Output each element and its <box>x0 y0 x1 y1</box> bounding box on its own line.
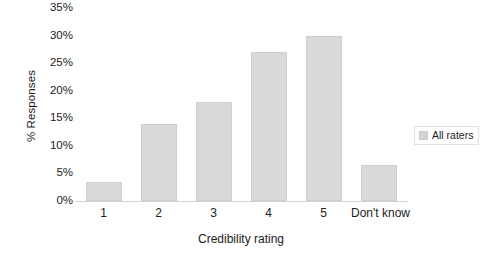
x-axis-tick: 2 <box>131 206 186 220</box>
y-axis-tick: 30% <box>33 30 73 42</box>
bar <box>141 124 177 201</box>
y-axis-tick: 15% <box>33 112 73 124</box>
x-axis-tick: 3 <box>186 206 241 220</box>
x-axis-tick: 5 <box>296 206 351 220</box>
x-axis-tick: 4 <box>241 206 296 220</box>
x-axis-tick-labels: 12345Don't know <box>76 206 416 228</box>
x-axis-tick: 1 <box>76 206 131 220</box>
bar <box>306 36 342 201</box>
legend-label-all-raters: All raters <box>432 130 473 141</box>
bar <box>361 165 397 201</box>
bar <box>196 102 232 201</box>
plot-area <box>76 8 406 201</box>
y-axis-tick: 35% <box>33 2 73 14</box>
legend-swatch-all-raters <box>419 131 428 140</box>
x-axis-tick: Don't know <box>351 206 406 220</box>
x-axis-title: Credibility rating <box>76 232 406 246</box>
chart-legend: All raters <box>414 126 479 145</box>
y-axis-tick: 10% <box>33 140 73 152</box>
y-axis-tick: 25% <box>33 57 73 69</box>
y-axis-tick: 20% <box>33 85 73 97</box>
y-axis-tick: 0% <box>33 195 73 207</box>
y-axis-tick-labels: 35%30%25%20%15%10%5%0% <box>33 0 73 261</box>
bar <box>251 52 287 201</box>
bar-chart: % Responses 35%30%25%20%15%10%5%0% 12345… <box>0 0 491 261</box>
x-axis-line <box>76 201 408 202</box>
y-axis-tick: 5% <box>33 167 73 179</box>
bar <box>86 182 122 201</box>
